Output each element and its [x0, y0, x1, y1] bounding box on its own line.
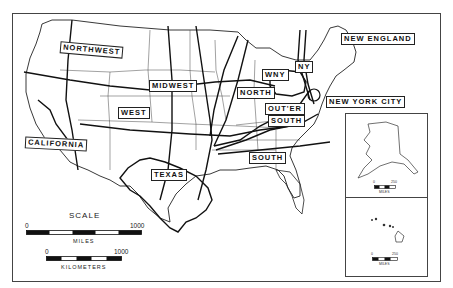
- label-wny: WNY: [262, 69, 289, 81]
- alaska-inset: 0 250 MILES: [345, 113, 428, 199]
- hawaii-inset: 0 250 MILES: [345, 197, 428, 277]
- km-scale-bar: [46, 256, 122, 262]
- hawaii-scale-bar: [372, 257, 398, 261]
- nyc-circle: [308, 89, 320, 101]
- label-midwest: MIDWEST: [149, 80, 197, 92]
- miles-unit-label: MILES: [73, 238, 95, 244]
- alaska-scale-bar: [374, 185, 396, 189]
- label-outer-south-line1: OUT'ER: [265, 103, 305, 115]
- hawaii-scale-unit: MILES: [379, 262, 390, 266]
- alaska-scale-unit: MILES: [379, 190, 390, 194]
- scale-title: SCALE: [69, 211, 100, 220]
- alaska-scale-end: 250: [391, 180, 397, 184]
- miles-scale-bar: [26, 230, 142, 236]
- hawaii-scale-end: 250: [392, 252, 398, 256]
- hawaii-shape: [346, 198, 429, 278]
- miles-scale-end: 1000: [130, 222, 144, 229]
- label-west: WEST: [118, 107, 150, 119]
- hawaii-scale-start: 0: [371, 252, 373, 256]
- miles-scale-start: 0: [25, 222, 29, 229]
- km-unit-label: KILOMETERS: [61, 264, 106, 270]
- km-scale-end: 1000: [114, 248, 128, 255]
- label-ny: NY: [295, 61, 313, 73]
- label-texas: TEXAS: [151, 169, 187, 181]
- alaska-scale-start: 0: [373, 180, 375, 184]
- label-new-england: NEW ENGLAND: [341, 33, 415, 45]
- label-new-york-city: NEW YORK CITY: [326, 96, 405, 108]
- km-scale-start: 0: [45, 248, 49, 255]
- label-north: NORTH: [237, 87, 275, 99]
- label-south: SOUTH: [249, 152, 286, 164]
- label-outer-south-line2: SOUTH: [268, 115, 305, 127]
